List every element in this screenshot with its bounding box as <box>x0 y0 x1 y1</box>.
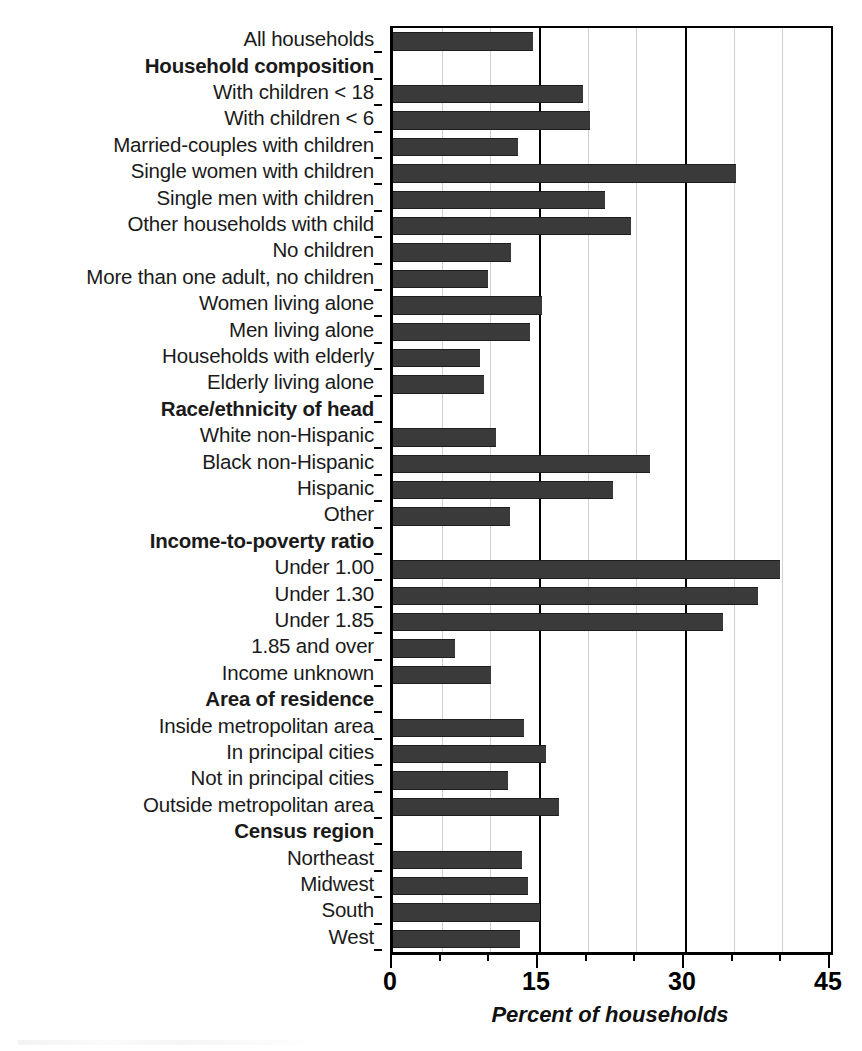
axis-tick-stub <box>374 606 382 608</box>
bar <box>393 719 524 737</box>
page-artifact <box>18 1040 318 1045</box>
bar-row <box>393 160 831 186</box>
bar-row <box>393 767 831 793</box>
axis-tick-stub <box>374 764 382 766</box>
bar-row <box>393 213 831 239</box>
bar-row <box>393 81 831 107</box>
axis-tick-stub <box>374 817 382 819</box>
bar-row <box>393 107 831 133</box>
axis-tick-stub <box>374 685 382 687</box>
bar <box>393 877 528 895</box>
axis-tick-stub <box>374 289 382 291</box>
bar-row <box>393 873 831 899</box>
bar <box>393 164 736 182</box>
plot-area <box>390 26 833 955</box>
x-tick-label: 15 <box>522 966 550 996</box>
bar <box>393 851 522 869</box>
axis-tick-stub <box>374 579 382 581</box>
axis-tick-stub <box>374 421 382 423</box>
bar <box>393 666 491 684</box>
bar-row <box>393 662 831 688</box>
bar-row <box>393 318 831 344</box>
bar <box>393 349 480 367</box>
bar-row <box>393 239 831 265</box>
bar-row <box>393 741 831 767</box>
axis-tick-stub <box>374 870 382 872</box>
x-tick-minor-40 <box>779 953 781 961</box>
bar <box>393 323 530 341</box>
x-axis-tick-labels: 0153045 <box>390 966 830 996</box>
bar <box>393 85 583 103</box>
axis-tick-stub <box>374 738 382 740</box>
bar-row <box>393 899 831 925</box>
bar <box>393 587 758 605</box>
axis-tick-stub <box>374 263 382 265</box>
x-tick-minor-35 <box>731 953 733 961</box>
category-label-column: All householdsHousehold compositionWith … <box>0 26 382 950</box>
axis-tick-stub <box>374 183 382 185</box>
axis-tick-stub <box>374 342 382 344</box>
bar <box>393 296 542 314</box>
category-label: West <box>328 922 374 952</box>
axis-tick-stub <box>374 368 382 370</box>
x-axis-title: Percent of households <box>390 1002 830 1028</box>
x-tick-minor-25 <box>633 953 635 961</box>
bar <box>393 111 590 129</box>
axis-tick-stub <box>374 315 382 317</box>
axis-tick-stub <box>374 474 382 476</box>
bar-row <box>393 477 831 503</box>
bar-chart: All householdsHousehold compositionWith … <box>0 0 862 1051</box>
bar-row <box>393 134 831 160</box>
axis-tick-stub <box>374 923 382 925</box>
axis-tick-stub <box>374 711 382 713</box>
axis-tick-stub <box>374 51 382 53</box>
axis-tick-stub <box>374 527 382 529</box>
bar <box>393 32 533 50</box>
x-tick-label: 30 <box>668 966 696 996</box>
bar-series <box>393 28 831 952</box>
axis-tick-stub <box>374 131 382 133</box>
bar <box>393 270 488 288</box>
bar <box>393 930 520 948</box>
bar-row <box>393 345 831 371</box>
bar <box>393 138 518 156</box>
axis-tick-stub <box>374 78 382 80</box>
x-tick-minor-20 <box>585 953 587 961</box>
bar-row <box>393 635 831 661</box>
axis-tick-stub <box>374 210 382 212</box>
bar <box>393 745 546 763</box>
bar-row <box>393 609 831 635</box>
bar <box>393 217 631 235</box>
axis-tick-stub <box>374 395 382 397</box>
bar <box>393 481 613 499</box>
bar <box>393 639 455 657</box>
bar-row <box>393 556 831 582</box>
bar <box>393 455 650 473</box>
bar <box>393 243 511 261</box>
bar-row <box>393 186 831 212</box>
x-tick-label: 45 <box>814 966 842 996</box>
x-tick-minor-5 <box>439 953 441 961</box>
bar <box>393 507 510 525</box>
axis-tick-stub <box>374 157 382 159</box>
axis-tick-stub <box>374 500 382 502</box>
bar-row <box>393 450 831 476</box>
bar-row <box>393 714 831 740</box>
bar-row <box>393 371 831 397</box>
bar <box>393 560 780 578</box>
bar-row <box>393 503 831 529</box>
axis-tick-stub <box>374 843 382 845</box>
bar-row <box>393 926 831 952</box>
axis-tick-stub <box>374 659 382 661</box>
bar <box>393 798 559 816</box>
bar <box>393 771 508 789</box>
bar-row <box>393 28 831 54</box>
bar <box>393 428 496 446</box>
axis-tick-stub <box>374 632 382 634</box>
bar-row <box>393 292 831 318</box>
bar <box>393 191 605 209</box>
axis-tick-stub <box>374 949 382 951</box>
bar <box>393 903 540 921</box>
bar-row <box>393 846 831 872</box>
axis-tick-stub <box>374 791 382 793</box>
